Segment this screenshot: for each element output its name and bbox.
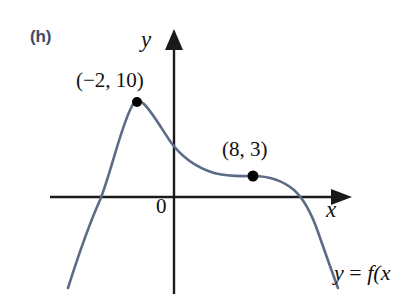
function-graph-figure: (h) (−2, 10) (8, 3) 0 y x y = f(x bbox=[0, 0, 418, 294]
graph-canvas bbox=[0, 0, 418, 294]
function-curve bbox=[68, 101, 338, 288]
local-maximum-label: (−2, 10) bbox=[76, 70, 144, 91]
part-label: (h) bbox=[30, 28, 51, 45]
origin-label: 0 bbox=[156, 196, 167, 217]
function-equation-label: y = f(x bbox=[334, 262, 390, 284]
y-axis-arrow-icon bbox=[165, 29, 183, 50]
function-label-fx: f(x bbox=[367, 260, 390, 285]
point-inflection bbox=[248, 171, 259, 182]
y-axis-label: y bbox=[141, 28, 151, 51]
function-label-y: y bbox=[334, 260, 344, 285]
point-local-maximum bbox=[132, 97, 142, 107]
function-label-equals: = bbox=[344, 260, 367, 285]
x-axis-label: x bbox=[326, 198, 336, 221]
inflection-point-label: (8, 3) bbox=[222, 139, 268, 160]
